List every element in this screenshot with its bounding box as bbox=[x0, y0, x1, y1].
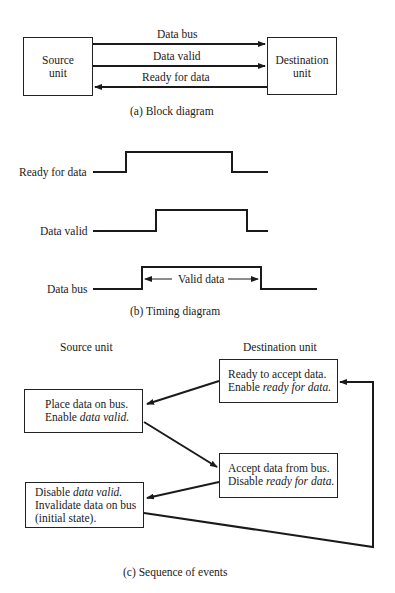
accept-box-line1: Accept data from bus. bbox=[228, 462, 337, 475]
ready-for-data-waveform bbox=[93, 152, 268, 172]
accept-to-disable-arrow bbox=[147, 482, 219, 498]
place-box-line1: Place data on bus. bbox=[45, 398, 142, 411]
source-unit-header: Source unit bbox=[60, 341, 113, 354]
ready-to-place-arrow bbox=[147, 381, 219, 404]
destination-unit-label-2: unit bbox=[268, 67, 336, 80]
place-data-box: Place data on bus. Enable data valid. bbox=[24, 389, 143, 433]
source-unit-label-2: unit bbox=[24, 67, 92, 80]
source-unit-label-1: Source bbox=[24, 54, 92, 67]
timing-ready-label: Ready for data bbox=[19, 166, 87, 179]
caption-b: (b) Timing diagram bbox=[130, 305, 220, 317]
ready-box-line2: Enable ready for data. bbox=[228, 381, 337, 394]
caption-c: (c) Sequence of events bbox=[123, 566, 227, 578]
destination-unit-label-1: Destination bbox=[268, 54, 336, 67]
timing-data-valid-label: Data valid bbox=[40, 225, 88, 238]
data-valid-waveform bbox=[93, 210, 268, 231]
disable-data-valid-box: Disable data valid. Invalidate data on b… bbox=[25, 482, 144, 528]
destination-unit-box: Destination unit bbox=[267, 37, 337, 95]
ready-for-data-label: Ready for data bbox=[142, 71, 210, 84]
data-valid-label: Data valid bbox=[153, 50, 201, 63]
caption-a: (a) Block diagram bbox=[130, 105, 214, 117]
disable-box-line1: Disable data valid. bbox=[35, 486, 143, 499]
data-bus-label: Data bus bbox=[157, 28, 198, 41]
timing-data-bus-label: Data bus bbox=[47, 283, 88, 296]
ready-to-accept-box: Ready to accept data. Enable ready for d… bbox=[219, 359, 338, 403]
place-to-accept-arrow bbox=[144, 422, 217, 467]
disable-box-line2: Invalidate data on bus bbox=[35, 499, 143, 512]
accept-data-box: Accept data from bus. Disable ready for … bbox=[219, 453, 338, 498]
ready-box-line1: Ready to accept data. bbox=[228, 368, 337, 381]
accept-box-line2: Disable ready for data. bbox=[228, 475, 337, 488]
destination-unit-header: Destination unit bbox=[243, 341, 317, 354]
disable-box-line3: (initial state). bbox=[35, 512, 143, 525]
source-unit-box: Source unit bbox=[23, 37, 93, 96]
valid-data-annotation: Valid data bbox=[176, 273, 226, 286]
place-box-line2: Enable data valid. bbox=[45, 411, 142, 424]
